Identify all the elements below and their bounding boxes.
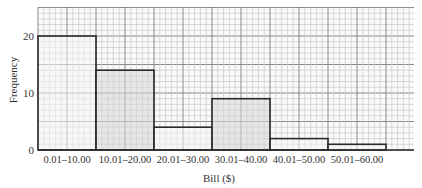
histogram-bar: [96, 70, 154, 150]
histogram-bar: [38, 36, 96, 150]
histogram-bar: [154, 127, 212, 150]
x-tick-label: 10.01–20.00: [99, 154, 152, 165]
x-tick-label: 20.01–30.00: [157, 154, 210, 165]
x-tick-label: 50.01–60.00: [331, 154, 384, 165]
y-tick-label: 10: [23, 87, 35, 99]
x-tick-label: 30.01–40.00: [215, 154, 268, 165]
x-tick-label: 0.01–10.00: [43, 154, 90, 165]
y-axis-ticks: 01020: [23, 30, 35, 156]
y-tick-label: 0: [29, 144, 35, 156]
x-axis-ticks: 0.01–10.0010.01–20.0020.01–30.0030.01–40…: [43, 154, 383, 165]
histogram-bar: [212, 99, 270, 150]
y-axis-label: Frequency: [7, 56, 19, 103]
x-tick-label: 40.01–50.00: [273, 154, 326, 165]
histogram-bar: [270, 139, 328, 150]
histogram-chart: 01020 0.01–10.0010.01–20.0020.01–30.0030…: [0, 0, 422, 188]
histogram-bar: [328, 144, 386, 150]
x-axis-label: Bill ($): [203, 172, 235, 185]
y-tick-label: 20: [23, 30, 35, 42]
